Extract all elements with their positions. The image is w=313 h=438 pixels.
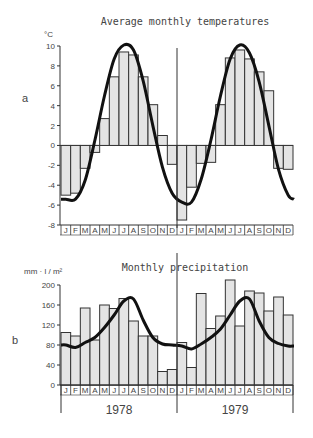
y-tick-label: 200 — [42, 281, 56, 290]
y-tick-label: 120 — [42, 321, 56, 330]
month-label: J — [122, 386, 126, 395]
bar — [245, 59, 255, 146]
month-label: O — [266, 386, 272, 395]
y-tick-label: -2 — [48, 161, 56, 170]
month-label: J — [180, 226, 184, 235]
bar — [148, 336, 158, 385]
bar — [119, 52, 129, 145]
month-label: J — [122, 226, 126, 235]
month-label: M — [217, 226, 224, 235]
month-label: A — [92, 226, 98, 235]
bar — [100, 119, 110, 146]
month-label: A — [92, 386, 98, 395]
bar — [129, 321, 139, 385]
month-label: J — [228, 226, 232, 235]
bar — [235, 50, 245, 145]
y-tick-label: 160 — [42, 301, 56, 310]
month-label: M — [82, 386, 89, 395]
temperature-chart-title: Average monthly temperatures — [101, 16, 270, 27]
month-label: S — [256, 226, 261, 235]
y-tick-label: 6 — [51, 82, 56, 91]
y-tick-label: 80 — [46, 341, 55, 350]
month-label: N — [276, 386, 282, 395]
month-label: J — [64, 386, 68, 395]
month-label: F — [189, 386, 194, 395]
month-label: F — [189, 226, 194, 235]
month-label: N — [276, 226, 282, 235]
y-tick-label: 4 — [51, 102, 56, 111]
month-label: M — [101, 226, 108, 235]
month-label: F — [73, 226, 78, 235]
temperature-unit-label: °C — [44, 30, 53, 39]
month-label: A — [131, 386, 137, 395]
bar — [61, 333, 71, 386]
month-label: D — [285, 226, 291, 235]
month-label: M — [198, 226, 205, 235]
month-label: M — [82, 226, 89, 235]
month-label: M — [101, 386, 108, 395]
y-tick-label: -8 — [48, 221, 56, 230]
bar — [167, 370, 177, 386]
panel-b-label: b — [12, 334, 18, 346]
month-label: D — [285, 386, 291, 395]
month-label: O — [266, 226, 272, 235]
month-label: D — [169, 386, 175, 395]
month-label: M — [198, 386, 205, 395]
y-tick-label: 0 — [51, 141, 56, 150]
bar — [235, 326, 245, 385]
month-label: S — [140, 226, 145, 235]
bar — [196, 294, 206, 386]
month-label: F — [73, 386, 78, 395]
month-label: M — [217, 386, 224, 395]
month-label: A — [247, 226, 253, 235]
month-label: S — [140, 386, 145, 395]
precipitation-chart-title: Monthly precipitation — [122, 262, 248, 273]
bar — [71, 145, 81, 193]
bar — [196, 145, 206, 163]
bar — [71, 336, 81, 385]
month-label: A — [247, 386, 253, 395]
month-label: O — [150, 386, 156, 395]
month-label: J — [238, 226, 242, 235]
y-tick-label: -4 — [48, 181, 56, 190]
y-tick-label: 10 — [46, 42, 55, 51]
month-label: J — [112, 386, 116, 395]
precipitation-unit-label: mm · l / m² — [24, 267, 63, 276]
bar — [167, 145, 177, 164]
bar — [177, 145, 187, 220]
bar — [187, 145, 197, 187]
bar — [158, 372, 168, 386]
bar — [90, 340, 100, 385]
month-label: A — [131, 226, 137, 235]
y-tick-label: -6 — [48, 201, 56, 210]
year-label-1978: 1978 — [106, 403, 133, 417]
month-label: S — [256, 386, 261, 395]
climate-figure: Average monthly temperatures °C a 108642… — [0, 0, 313, 438]
month-label: J — [180, 386, 184, 395]
month-label: J — [64, 226, 68, 235]
y-tick-label: 8 — [51, 62, 56, 71]
month-label: J — [238, 386, 242, 395]
y-tick-label: 2 — [51, 122, 56, 131]
month-label: J — [112, 226, 116, 235]
year-label-1979: 1979 — [222, 403, 249, 417]
month-label: A — [208, 226, 214, 235]
month-label: N — [160, 386, 166, 395]
month-label: A — [208, 386, 214, 395]
bar — [80, 308, 90, 385]
panel-a-label: a — [22, 92, 29, 104]
bar — [61, 145, 71, 195]
month-label: N — [160, 226, 166, 235]
bar — [177, 343, 187, 386]
bar — [225, 280, 235, 385]
bar — [109, 77, 119, 146]
bar — [254, 293, 264, 385]
bar — [129, 55, 139, 145]
bar — [283, 315, 293, 385]
bar — [264, 311, 274, 385]
bar — [119, 299, 129, 386]
month-label: D — [169, 226, 175, 235]
bar — [158, 136, 168, 146]
y-tick-label: 40 — [46, 361, 55, 370]
month-label: J — [228, 386, 232, 395]
